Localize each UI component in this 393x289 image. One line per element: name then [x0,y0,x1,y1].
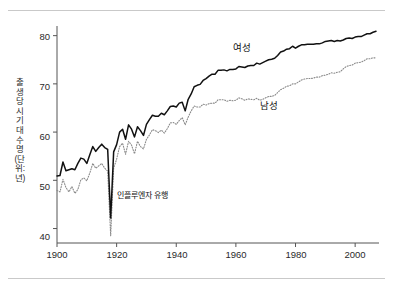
x-tick-label-1920: 1920 [97,249,137,260]
y-axis-ticks [53,36,57,229]
y-tick-label-40: 40 [28,231,50,242]
x-tick-label-2000: 2000 [335,249,375,260]
annotation-influenza-epidemic: 인플루엔자 유행 [117,189,168,200]
x-tick-label-1900: 1900 [37,249,77,260]
chart-series-group [57,31,376,235]
chart-axes [53,26,379,247]
y-tick-label-50: 50 [28,181,50,192]
y-tick-label-60: 60 [28,131,50,142]
series-label-male: 남성 [260,98,278,112]
x-tick-label-1940: 1940 [157,249,197,260]
series-line-female [57,31,376,218]
x-tick-label-1960: 1960 [216,249,256,260]
x-tick-label-1980: 1980 [276,249,316,260]
series-label-female: 여성 [233,40,251,54]
chart-figure: 출생 당시 기대 수명(단위: 년) 80 70 60 50 40 1900 1… [0,0,393,289]
y-tick-label-70: 70 [28,81,50,92]
y-tick-label-80: 80 [28,31,50,42]
line-chart-plot [0,0,393,289]
y-axis-title: 출생 당시 기대 수명(단위: 년) [13,78,27,184]
x-axis-ticks [57,243,355,247]
